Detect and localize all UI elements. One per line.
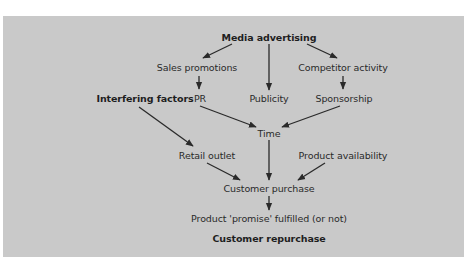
arrow-availability-to-purchase xyxy=(298,163,325,180)
arrow-sponsorship-to-time xyxy=(282,106,340,127)
node-media-advertising: Media advertising xyxy=(222,32,317,43)
node-pr: PR xyxy=(194,93,206,104)
node-sales-promotions: Sales promotions xyxy=(157,62,237,73)
arrow-media-to-competitor xyxy=(307,44,337,58)
arrow-retail-to-purchase xyxy=(207,163,240,180)
node-publicity: Publicity xyxy=(249,93,288,104)
node-interfering-factors: Interfering factors xyxy=(96,93,193,104)
node-competitor-activity: Competitor activity xyxy=(298,62,388,73)
arrow-media-to-sales xyxy=(203,44,232,58)
arrow-pr-to-time xyxy=(200,106,256,127)
node-product-availability: Product availability xyxy=(299,150,388,161)
node-time: Time xyxy=(258,128,281,139)
node-customer-purchase: Customer purchase xyxy=(223,183,314,194)
node-sponsorship: Sponsorship xyxy=(315,93,372,104)
node-product-promise: Product 'promise' fulfilled (or not) xyxy=(191,213,347,224)
node-retail-outlet: Retail outlet xyxy=(179,150,235,161)
node-customer-repurchase: Customer repurchase xyxy=(212,233,325,244)
arrow-interfering-to-retail xyxy=(139,107,193,146)
